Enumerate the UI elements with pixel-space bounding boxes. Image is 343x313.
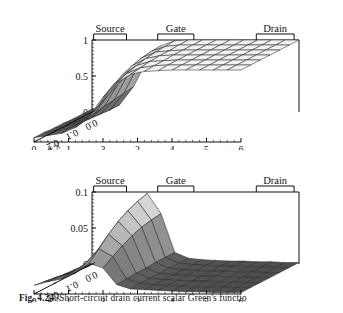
electrode-label-source: Source bbox=[95, 175, 124, 186]
z-tick-label: 1 bbox=[83, 35, 88, 46]
electrode-bracket-source bbox=[94, 34, 127, 40]
x-tick-label: 5 bbox=[204, 144, 209, 150]
z-tick-label: 0.5 bbox=[76, 71, 89, 82]
caption-prefix: Fig. 4.24. bbox=[19, 293, 57, 303]
electrode-brackets: SourceGateDrain bbox=[94, 175, 294, 193]
electrode-bracket-drain bbox=[256, 34, 294, 40]
electrode-label-drain: Drain bbox=[263, 23, 288, 34]
electrode-bracket-drain bbox=[256, 186, 294, 192]
surface-plot-bottom: 0.10.050SourceGateDrain0132456x, μm0.00.… bbox=[0, 152, 343, 302]
electrode-label-drain: Drain bbox=[263, 175, 288, 186]
electrode-bracket-gate bbox=[158, 186, 194, 192]
figure-4-24: 10.50SourceGateDrain0132456x, μm0.00.10.… bbox=[0, 0, 343, 313]
electrode-label-source: Source bbox=[95, 23, 124, 34]
x-tick-label: 6 bbox=[239, 144, 244, 150]
surface-plot-top: 10.50SourceGateDrain0132456x, μm0.00.10.… bbox=[0, 0, 343, 150]
y-tick-label: 0.0 bbox=[84, 269, 100, 285]
x-tick-label: 3 bbox=[101, 144, 106, 150]
z-tick-label: 0.1 bbox=[76, 187, 89, 198]
mesh-surface bbox=[34, 40, 299, 138]
x-axis: 0132456x, μm bbox=[32, 138, 244, 150]
x-tick-label: 2 bbox=[135, 144, 140, 150]
x-tick-label: 4 bbox=[170, 144, 175, 150]
electrode-bracket-gate bbox=[158, 34, 194, 40]
caption-text: Short-circuit drain current scalar Green… bbox=[59, 293, 247, 303]
electrode-label-gate: Gate bbox=[166, 23, 186, 34]
electrode-bracket-source bbox=[94, 186, 127, 192]
electrode-brackets: SourceGateDrain bbox=[94, 23, 294, 41]
surface-canvas: 10.50SourceGateDrain0132456x, μm0.00.10.… bbox=[0, 0, 343, 150]
figure-caption: Fig. 4.24. Short-circuit drain current s… bbox=[0, 292, 343, 304]
surface-canvas: 0.10.050SourceGateDrain0132456x, μm0.00.… bbox=[0, 152, 343, 302]
z-tick-label: 0.05 bbox=[71, 223, 89, 234]
x-tick-label: 1 bbox=[66, 144, 71, 150]
electrode-label-gate: Gate bbox=[166, 175, 186, 186]
mesh-surface bbox=[34, 193, 299, 292]
